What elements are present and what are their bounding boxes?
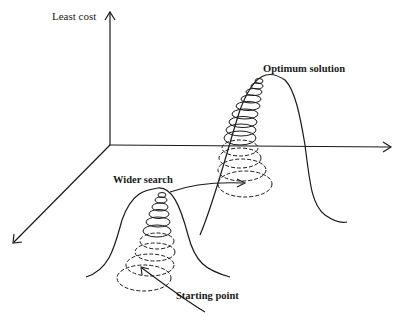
wider-search-arrow xyxy=(170,183,243,192)
global-spiral xyxy=(218,140,272,197)
search-diagram: Least cost Optimum solution Wider search… xyxy=(0,0,403,328)
axes xyxy=(13,12,391,243)
diagram-canvas xyxy=(0,0,403,328)
y-axis-label: Least cost xyxy=(52,11,96,22)
global-peak-curve xyxy=(200,74,347,235)
global-spiral-top xyxy=(224,79,263,146)
wider-search-label: Wider search xyxy=(113,175,173,186)
local-peak-curve xyxy=(86,188,230,277)
starting-point-label: Starting point xyxy=(176,291,239,302)
local-spiral-top xyxy=(143,193,171,238)
local-spiral xyxy=(117,233,175,291)
optimum-label: Optimum solution xyxy=(263,64,345,75)
